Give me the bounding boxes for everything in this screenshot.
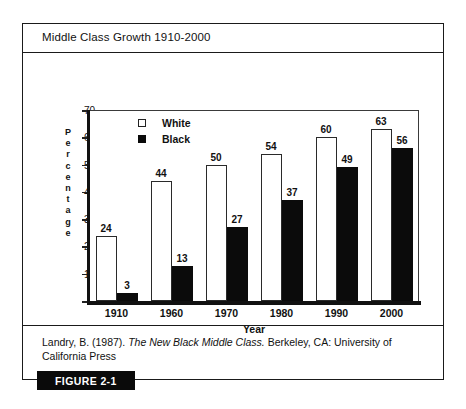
- bar-black-1970: 27: [227, 227, 248, 301]
- bar-group-1970: 5027: [199, 110, 254, 301]
- x-tick-label-1990: 1990: [325, 307, 348, 319]
- bar-black-1980: 37: [282, 200, 303, 301]
- bar-value-white-1960: 44: [155, 168, 166, 179]
- bar-white-1990: 60: [316, 137, 337, 301]
- y-tick-mark-0: [82, 301, 87, 303]
- bar-group-1980: 5437: [254, 110, 309, 301]
- bar-value-white-2000: 63: [375, 116, 386, 127]
- y-tick-mark-20: [82, 246, 87, 248]
- y-tick-mark-10: [82, 274, 87, 276]
- bar-value-black-1910: 3: [124, 280, 130, 291]
- x-axis-line: [87, 301, 421, 305]
- caption-prefix: Landry, B. (1987).: [42, 336, 128, 348]
- bar-black-1960: 13: [172, 266, 193, 301]
- bar-value-black-1960: 13: [176, 253, 187, 264]
- y-tick-mark-60: [82, 137, 87, 139]
- bar-value-black-1990: 49: [341, 154, 352, 165]
- bar-value-black-2000: 56: [396, 135, 407, 146]
- bars-layer: 24344135027543760496356: [89, 110, 419, 301]
- y-tick-mark-50: [82, 165, 87, 167]
- bar-black-2000: 56: [392, 148, 413, 301]
- figure-number-badge: FIGURE 2-1: [37, 371, 135, 390]
- bar-black-1990: 49: [337, 167, 358, 301]
- bar-value-white-1980: 54: [265, 141, 276, 152]
- figure-frame: Middle Class Growth 1910-2000 Percentage…: [22, 23, 444, 380]
- bar-black-1910: 3: [117, 293, 138, 301]
- x-tick-label-1960: 1960: [160, 307, 183, 319]
- bar-value-white-1970: 50: [210, 152, 221, 163]
- x-axis-tick-labels: 191019601970198019902000: [89, 307, 419, 323]
- x-tick-label-1910: 1910: [105, 307, 128, 319]
- figure-caption: Landry, B. (1987). The New Black Middle …: [42, 335, 427, 363]
- bar-white-1980: 54: [261, 154, 282, 301]
- bar-white-1960: 44: [151, 181, 172, 301]
- bar-group-1910: 243: [89, 110, 144, 301]
- bar-white-1970: 50: [206, 165, 227, 301]
- bar-group-1960: 4413: [144, 110, 199, 301]
- bar-white-2000: 63: [371, 129, 392, 301]
- bar-white-1910: 24: [96, 236, 117, 301]
- chart-title-band: Middle Class Growth 1910-2000: [23, 24, 443, 53]
- chart-title: Middle Class Growth 1910-2000: [42, 31, 211, 43]
- x-tick-label-1980: 1980: [270, 307, 293, 319]
- plot-region: Percentage 010203040506070 White Black 2…: [23, 53, 443, 325]
- bar-group-1990: 6049: [309, 110, 364, 301]
- x-tick-label-1970: 1970: [215, 307, 238, 319]
- x-tick-label-2000: 2000: [380, 307, 403, 319]
- bar-group-2000: 6356: [364, 110, 419, 301]
- bar-value-white-1910: 24: [100, 223, 111, 234]
- y-tick-mark-40: [82, 192, 87, 194]
- caption-italic-title: The New Black Middle Class.: [128, 336, 265, 348]
- bar-value-black-1980: 37: [286, 187, 297, 198]
- y-tick-mark-30: [82, 219, 87, 221]
- y-tick-mark-70: [82, 110, 87, 112]
- bar-value-white-1990: 60: [320, 124, 331, 135]
- bar-value-black-1970: 27: [231, 214, 242, 225]
